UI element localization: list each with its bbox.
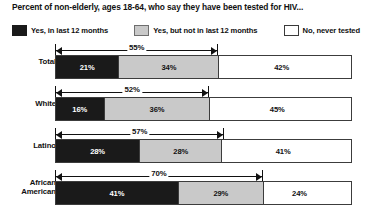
row-label-latino: Latino xyxy=(0,142,56,151)
row-label-line1: Total xyxy=(38,57,56,66)
row-label-white: White xyxy=(0,100,56,109)
segment-never-african-american: 24% xyxy=(264,182,335,204)
row-label-line1: White xyxy=(35,99,56,108)
bar-track-latino: 28% 28% 41% xyxy=(55,139,352,163)
segment-never-white: 45% xyxy=(210,98,344,120)
bracket-total: 55% xyxy=(55,42,218,56)
chart-rows: Total 55% 21% 34% 42% White xyxy=(0,42,370,210)
legend-label-never: No, never tested xyxy=(303,26,360,35)
segment-recent-african-american: 41% xyxy=(56,182,178,204)
segment-never-latino: 41% xyxy=(222,140,344,162)
row-label-line2: American xyxy=(0,188,56,197)
chart-row-total: Total 55% 21% 34% 42% xyxy=(0,42,370,84)
hiv-testing-stacked-bar-chart: Percent of non-elderly, ages 18-64, who … xyxy=(0,0,370,214)
row-label-total: Total xyxy=(0,58,56,67)
bracket-label-african-american: 70% xyxy=(149,169,168,178)
segment-past-total: 34% xyxy=(118,56,219,78)
segment-past-african-american: 29% xyxy=(178,182,264,204)
chart-row-african-american: African American 70% 41% 29% 24% xyxy=(0,168,370,210)
segment-recent-total: 21% xyxy=(56,56,118,78)
row-label-african-american: African American xyxy=(0,179,56,196)
segment-past-latino: 28% xyxy=(139,140,222,162)
legend-item-never: No, never tested xyxy=(284,25,360,36)
segment-past-white: 36% xyxy=(104,98,211,120)
row-label-line1: Latino xyxy=(33,141,56,150)
row-label-line1: African xyxy=(30,178,56,187)
bracket-african-american: 70% xyxy=(55,168,263,182)
white-swatch-icon xyxy=(284,25,299,36)
bar-track-white: 16% 36% 45% xyxy=(55,97,352,121)
bracket-label-white: 52% xyxy=(123,85,142,94)
bracket-label-latino: 57% xyxy=(130,127,149,136)
bar-track-african-american: 41% 29% 24% xyxy=(55,181,352,205)
bracket-white: 52% xyxy=(55,84,209,98)
bar-track-total: 21% 34% 42% xyxy=(55,55,352,79)
chart-row-latino: Latino 57% 28% 28% 41% xyxy=(0,126,370,168)
legend-label-recent: Yes, in last 12 months xyxy=(31,26,108,35)
legend-item-past: Yes, but not in last 12 months xyxy=(134,25,257,36)
bracket-label-total: 55% xyxy=(127,43,146,52)
segment-recent-latino: 28% xyxy=(56,140,139,162)
black-swatch-icon xyxy=(12,25,27,36)
chart-row-white: White 52% 16% 36% 45% xyxy=(0,84,370,126)
legend-item-recent: Yes, in last 12 months xyxy=(12,25,108,36)
chart-legend: Yes, in last 12 months Yes, but not in l… xyxy=(12,22,360,38)
legend-label-past: Yes, but not in last 12 months xyxy=(153,26,257,35)
segment-recent-white: 16% xyxy=(56,98,104,120)
gray-swatch-icon xyxy=(134,25,149,36)
segment-never-total: 42% xyxy=(219,56,344,78)
bracket-latino: 57% xyxy=(55,126,224,140)
chart-title: Percent of non-elderly, ages 18-64, who … xyxy=(12,2,303,12)
